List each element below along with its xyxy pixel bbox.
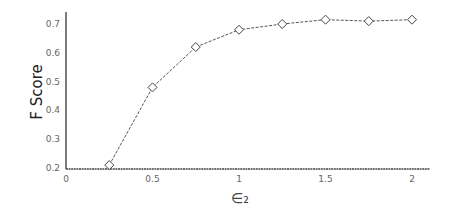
series-line bbox=[109, 20, 412, 165]
y-tick-label: 0.2 bbox=[46, 163, 60, 173]
y-tick-label: 0.5 bbox=[46, 77, 60, 87]
diamond-marker-icon bbox=[364, 17, 373, 26]
diamond-marker-icon bbox=[321, 15, 330, 24]
y-axis: 0.20.30.40.50.60.7 bbox=[46, 12, 66, 173]
y-tick-label: 0.6 bbox=[46, 48, 61, 58]
x-tick-label: 1.5 bbox=[318, 174, 332, 184]
diamond-marker-icon bbox=[235, 25, 244, 34]
line-chart: 0.20.30.40.50.60.7 00.511.52 F Score ∈₂ bbox=[0, 0, 456, 214]
diamond-marker-icon bbox=[105, 161, 114, 170]
diamond-marker-icon bbox=[191, 43, 200, 52]
x-tick-label: 0 bbox=[63, 174, 69, 184]
diamond-marker-icon bbox=[278, 20, 287, 29]
x-tick-label: 2 bbox=[409, 174, 415, 184]
x-axis-label: ∈₂ bbox=[231, 190, 249, 206]
y-tick-label: 0.3 bbox=[46, 134, 60, 144]
x-tick-label: 0.5 bbox=[145, 174, 159, 184]
x-axis: 00.511.52 bbox=[63, 169, 430, 184]
y-tick-label: 0.4 bbox=[46, 105, 61, 115]
y-axis-label: F Score bbox=[28, 64, 46, 119]
diamond-marker-icon bbox=[408, 15, 417, 24]
data-series bbox=[105, 15, 417, 169]
y-tick-label: 0.7 bbox=[46, 19, 60, 29]
diamond-marker-icon bbox=[148, 83, 157, 92]
x-tick-label: 1 bbox=[236, 174, 242, 184]
